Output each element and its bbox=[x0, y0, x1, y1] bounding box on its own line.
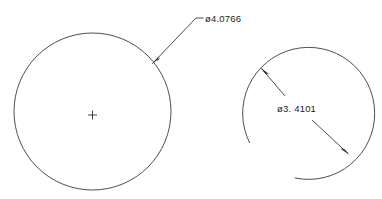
circle-diameter-label: ø4.0766 bbox=[205, 13, 241, 24]
leader-arrow-icon bbox=[152, 56, 161, 64]
technical-drawing-canvas: ø4.0766 ø3. 4101 bbox=[0, 0, 382, 199]
center-mark-cross bbox=[88, 111, 97, 120]
arc-diameter-label: ø3. 4101 bbox=[277, 103, 316, 114]
dimension-arrow-start-icon bbox=[261, 68, 270, 77]
circle-diameter-leader bbox=[152, 18, 204, 65]
